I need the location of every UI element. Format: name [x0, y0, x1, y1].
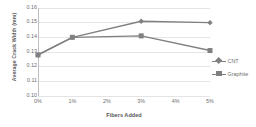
diamond-marker-icon	[215, 56, 223, 64]
y-axis-tick-label: 0.11	[27, 78, 37, 83]
x-axis-tick-label: 5%	[206, 99, 214, 104]
square-marker-icon	[216, 71, 221, 76]
series-line	[38, 35, 210, 54]
data-point-marker	[36, 52, 41, 57]
y-axis-tick-label: 0.16	[27, 5, 38, 10]
legend-symbol	[212, 57, 226, 66]
x-axis-tick-labels: 0%1%2%3%4%5%	[38, 99, 210, 109]
gridline	[38, 96, 210, 97]
data-point-marker	[139, 18, 144, 23]
x-axis-tick-label: 0%	[34, 99, 42, 104]
x-axis-tick-label: 2%	[103, 99, 111, 104]
legend-label: CNT	[228, 59, 239, 64]
data-point-marker	[139, 33, 144, 38]
y-axis-tick-label: 0.12	[27, 63, 38, 68]
series-line	[38, 21, 210, 55]
y-axis-tick-label: 0.13	[27, 49, 38, 54]
data-point-marker	[70, 34, 75, 39]
y-axis-tick-label: 0.15	[27, 19, 38, 24]
y-axis-tick-labels: 0.160.150.140.130.120.110.10	[15, 0, 37, 96]
legend: CNTGraphite	[212, 55, 256, 81]
series-cnt	[35, 18, 212, 57]
legend-symbol	[212, 70, 226, 79]
x-axis-tick-label: 3%	[137, 99, 145, 104]
series-layer	[38, 8, 210, 96]
legend-item-graphite[interactable]: Graphite	[212, 68, 256, 81]
x-axis-tick-label: 4%	[172, 99, 180, 104]
data-point-marker	[207, 19, 212, 24]
data-point-marker	[208, 48, 213, 53]
y-axis-tick-label: 0.14	[27, 34, 38, 39]
x-axis-tick-label: 1%	[68, 99, 76, 104]
plot-area	[38, 8, 210, 96]
x-axis-title: Fibers Added	[38, 112, 210, 118]
line-chart: Average Crack Width (mm) 0.160.150.140.1…	[0, 0, 256, 127]
legend-item-cnt[interactable]: CNT	[212, 55, 256, 68]
series-graphite	[36, 33, 213, 57]
legend-label: Graphite	[228, 72, 249, 77]
